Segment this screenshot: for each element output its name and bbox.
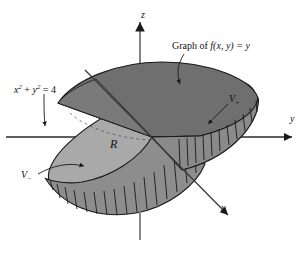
circle-equals-value: = 4 [40, 84, 56, 95]
volume-negative-label: V− [21, 170, 32, 183]
figure-canvas: z y x R x2 + y2 = 4 Graph of f(x, y) = y… [0, 0, 308, 253]
axis-label-z: z [141, 10, 145, 20]
leader-circle [44, 94, 45, 126]
graph-of-prefix: Graph of [172, 40, 210, 51]
region-label-R: R [110, 138, 117, 150]
axis-label-x: x [221, 203, 225, 213]
volume-positive-label: V+ [229, 94, 240, 107]
circle-equation-label: x2 + y2 = 4 [14, 84, 56, 95]
graph-of-expression: f(x, y) = y [210, 40, 250, 51]
volume-negative-subscript: − [27, 175, 32, 182]
circle-plus: + [22, 84, 33, 95]
volume-positive-subscript: + [235, 99, 240, 106]
axis-label-y: y [290, 114, 294, 124]
graph-of-label: Graph of f(x, y) = y [172, 41, 250, 51]
diagram-svg [0, 0, 308, 253]
